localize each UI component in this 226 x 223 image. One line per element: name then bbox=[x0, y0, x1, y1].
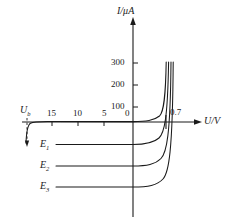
y-axis-label: I/μA bbox=[117, 6, 134, 16]
x-axis-label: U/V bbox=[204, 116, 220, 126]
curve-label-E1: E1 bbox=[40, 139, 49, 152]
x-tick-label-5: 5 bbox=[102, 109, 107, 118]
breakdown-voltage-label: Ub bbox=[20, 105, 30, 118]
curve-label-E3: E3 bbox=[40, 181, 49, 194]
x-tick-label-0: 0 bbox=[125, 109, 130, 118]
breakdown-voltage-subscript: b bbox=[27, 110, 30, 117]
curve-label-E2: E2 bbox=[40, 160, 49, 173]
x-axis-arrowhead bbox=[194, 119, 202, 124]
curve-label-E3-subscript: 3 bbox=[46, 186, 49, 193]
x-tick-label-15: 15 bbox=[47, 109, 56, 118]
x-tick-label-10: 10 bbox=[73, 109, 82, 118]
iv-curve-plot bbox=[0, 0, 226, 223]
y-tick-label-100: 100 bbox=[111, 102, 125, 111]
y-tick-label-300: 300 bbox=[111, 58, 125, 67]
curve-label-E2-subscript: 2 bbox=[46, 165, 49, 172]
y-tick-label-200: 200 bbox=[111, 80, 125, 89]
curve-dark bbox=[26, 62, 166, 143]
diode-iv-characteristic-figure: I/μA U/V 300 200 100 15 10 5 0 0.7 Ub E1… bbox=[0, 0, 226, 223]
breakdown-arrowhead bbox=[25, 141, 29, 148]
curve-label-E1-subscript: 1 bbox=[46, 144, 49, 151]
y-axis-ticks bbox=[133, 63, 138, 107]
x-tick-label-0point7: 0.7 bbox=[170, 108, 181, 117]
y-axis-arrowhead bbox=[130, 17, 136, 25]
